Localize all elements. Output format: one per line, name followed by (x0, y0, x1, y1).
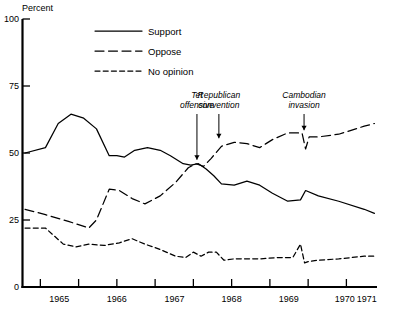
legend-label-oppose: Oppose (148, 46, 181, 57)
y-tick-label: 0 (14, 282, 19, 292)
x-tick-label: 1969 (279, 294, 299, 304)
annotation-label: Republican (198, 90, 241, 100)
y-tick-label: 25 (9, 215, 19, 225)
y-tick-label: 100 (4, 14, 19, 24)
x-tick-label: 1970 (335, 294, 355, 304)
y-tick-label: 50 (9, 148, 19, 158)
x-tick-label: 1968 (222, 294, 242, 304)
annotation-label: Cambodian (282, 90, 326, 100)
y-tick-label: 75 (9, 81, 19, 91)
x-tick-label: 1967 (164, 294, 184, 304)
x-tick-label: 1971 (357, 294, 377, 304)
annotation-label: convention (198, 100, 239, 110)
x-tick-label: 1966 (107, 294, 127, 304)
annotation-label: invasion (288, 100, 319, 110)
y-axis-title: Percent (22, 3, 54, 13)
chart-canvas: Percent 0255075100 196519661967196819691… (0, 0, 393, 317)
legend-label-no-opinion: No opinion (148, 66, 193, 77)
legend-label-support: Support (148, 26, 182, 37)
poll-line-chart: Percent 0255075100 196519661967196819691… (0, 0, 393, 317)
x-tick-label: 1965 (49, 294, 69, 304)
